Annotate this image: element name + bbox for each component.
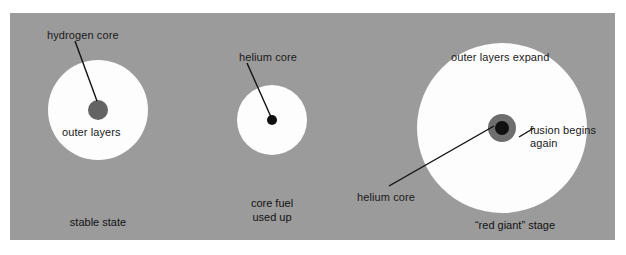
label-outer-layers-expand: outer layers expand — [451, 51, 550, 64]
caption-core-fuel-used-up: core fuel used up — [222, 196, 322, 224]
caption-stable-state: stable state — [38, 215, 158, 229]
label-helium-core-stage3: helium core — [357, 191, 415, 204]
label-hydrogen-core: hydrogen core — [47, 29, 119, 42]
stellar-evolution-diagram: hydrogen core outer layers stable state … — [0, 0, 626, 255]
label-fusion-begins-again: fusion begins again — [530, 124, 596, 150]
caption-red-giant-stage: “red giant” stage — [440, 218, 590, 232]
label-outer-layers: outer layers — [62, 126, 121, 139]
hydrogen-core — [88, 100, 108, 120]
label-helium-core-stage2: helium core — [239, 51, 297, 64]
fusion-core-stage3 — [495, 121, 509, 135]
helium-core-stage2 — [267, 115, 277, 125]
